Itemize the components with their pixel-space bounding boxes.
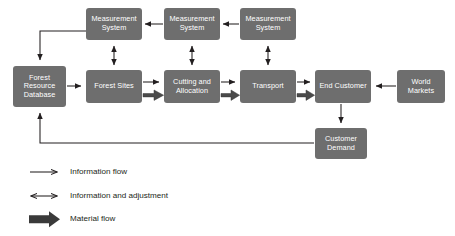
supply-chain-diagram: Measurement System Measurement System Me… (0, 0, 455, 236)
legend-label-material-flow: Material flow (70, 214, 115, 224)
node-measurement-system-1[interactable]: Measurement System (86, 8, 142, 40)
legend-text: Information flow (70, 167, 127, 176)
diagram-connectors-layer (0, 0, 455, 236)
node-cutting-and-allocation[interactable]: Cutting and Allocation (164, 70, 220, 103)
node-label: World Markets (408, 78, 434, 95)
node-measurement-system-2[interactable]: Measurement System (164, 8, 220, 40)
node-customer-demand[interactable]: Customer Demand (315, 128, 367, 159)
legend-text: Information and adjustment (70, 191, 168, 200)
node-measurement-system-3[interactable]: Measurement System (240, 8, 296, 40)
legend-label-information-flow: Information flow (70, 167, 127, 177)
node-label: Transport (252, 82, 283, 91)
legend-label-information-and-adjustment: Information and adjustment (70, 191, 168, 201)
node-label: End Customer (319, 82, 366, 91)
material-flow-forest-sites-to-cutting (143, 90, 164, 100)
node-label: Forest Sites (94, 82, 134, 91)
node-label: Measurement System (169, 15, 214, 32)
node-label: Customer Demand (325, 135, 357, 152)
node-end-customer[interactable]: End Customer (315, 70, 371, 103)
connector-ms1-to-database (40, 31, 86, 60)
node-transport[interactable]: Transport (240, 70, 296, 103)
node-label: Forest Resource Database (24, 74, 56, 100)
node-world-markets[interactable]: World Markets (397, 70, 445, 103)
material-flow-cutting-to-transport (221, 90, 240, 100)
legend-text: Material flow (70, 214, 115, 223)
node-label: Measurement System (91, 15, 136, 32)
node-forest-sites[interactable]: Forest Sites (86, 70, 142, 103)
node-label: Measurement System (245, 15, 290, 32)
legend-marker-material-flow (29, 211, 60, 227)
node-forest-resource-database[interactable]: Forest Resource Database (13, 66, 66, 107)
material-flow-transport-to-end-customer (297, 90, 315, 100)
node-label: Cutting and Allocation (173, 78, 211, 95)
connector-customer-demand-to-database (40, 113, 314, 143)
